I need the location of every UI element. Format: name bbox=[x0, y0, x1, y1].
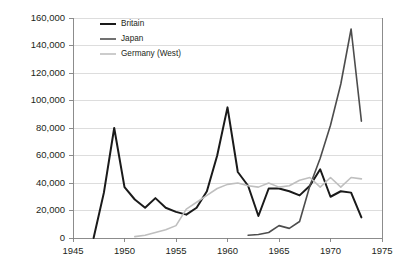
x-tick-label: 1970 bbox=[320, 245, 341, 256]
x-tick-label: 1965 bbox=[268, 245, 289, 256]
x-tick-label: 1975 bbox=[371, 245, 392, 256]
y-tick-label: 20,000 bbox=[36, 204, 65, 215]
legend-label: Japan bbox=[121, 34, 144, 43]
y-tick-label: 100,000 bbox=[31, 94, 65, 105]
line-chart: 020,00040,00060,00080,000100,000120,0001… bbox=[0, 0, 401, 276]
y-tick-label: 60,000 bbox=[36, 149, 65, 160]
legend-label: Germany (West) bbox=[121, 49, 181, 58]
y-tick-label: 80,000 bbox=[36, 122, 65, 133]
series-line-japan bbox=[248, 29, 361, 235]
y-axis-ticks: 020,00040,00060,00080,000100,000120,0001… bbox=[31, 12, 73, 243]
x-tick-label: 1960 bbox=[217, 245, 238, 256]
series-line-britain bbox=[94, 107, 362, 238]
legend: BritainJapanGermany (West) bbox=[100, 19, 181, 58]
series-group bbox=[94, 29, 362, 238]
y-tick-label: 0 bbox=[60, 232, 65, 243]
x-tick-label: 1955 bbox=[165, 245, 186, 256]
y-tick-label: 40,000 bbox=[36, 177, 65, 188]
y-tick-label: 160,000 bbox=[31, 12, 65, 23]
y-tick-label: 140,000 bbox=[31, 39, 65, 50]
x-axis-ticks: 1945195019551960196519701975 bbox=[62, 238, 392, 256]
x-tick-label: 1950 bbox=[114, 245, 135, 256]
legend-label: Britain bbox=[121, 19, 145, 28]
y-tick-label: 120,000 bbox=[31, 67, 65, 78]
x-tick-label: 1945 bbox=[62, 245, 83, 256]
chart-canvas: 020,00040,00060,00080,000100,000120,0001… bbox=[0, 0, 401, 276]
